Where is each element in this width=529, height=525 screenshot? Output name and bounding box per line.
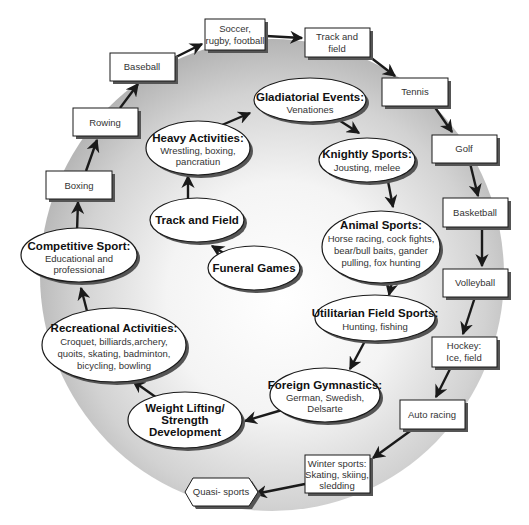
track-field-line-1: Track and <box>316 31 358 42</box>
winter-line-3: sledding <box>319 480 354 491</box>
animal-sports-sub-2: bear/bull baits, gander <box>334 245 428 256</box>
gladiatorial-events-title: Gladiatorial Events: <box>256 91 364 103</box>
track-field-line-2: field <box>328 43 345 54</box>
hexagon-quasi-sports: Quasi- sports <box>185 478 261 509</box>
foreign-gymnastics-sub-1: German, Swedish, <box>286 392 364 403</box>
hockey-line-2: Ice, field <box>446 352 481 363</box>
recreational-activities-sub-3: bicycling, bowling <box>77 360 151 371</box>
utilitarian-field-sports-sub: Hunting, fishing <box>342 321 407 332</box>
rowing-label: Rowing <box>89 117 121 128</box>
baseball-label: Baseball <box>124 61 160 72</box>
golf-label: Golf <box>455 143 473 154</box>
box-hockey: Hockey: Ice, field <box>432 337 500 370</box>
soccer-line-1: Soccer, <box>219 23 251 34</box>
heavy-activities-sub-1: Wrestling, boxing, <box>160 145 235 156</box>
winter-line-1: Winter sports: <box>308 458 367 469</box>
recreational-activities-sub-2: quoits, skating, badminton, <box>57 348 170 359</box>
box-auto-racing: Auto racing <box>400 400 468 432</box>
auto-racing-label: Auto racing <box>408 409 456 420</box>
winter-line-2: Skating, skiing, <box>305 469 369 480</box>
box-baseball: Baseball <box>110 53 178 84</box>
box-basketball: Basketball <box>443 198 511 230</box>
box-winter-sports: Winter sports: Skating, skiing, sledding <box>305 455 373 496</box>
sports-evolution-diagram: Soccer, rugby, football Track and field … <box>0 0 529 525</box>
ellipse-competitive-sport: Competitive Sport: Educational and profe… <box>21 228 140 285</box>
knightly-sports-sub: Jousting, melee <box>334 162 401 173</box>
heavy-activities-sub-2: pancratiun <box>176 156 220 167</box>
weight-lifting-title-2: Strength <box>161 414 208 426</box>
box-golf: Golf <box>432 135 500 166</box>
box-rowing: Rowing <box>73 108 141 139</box>
animal-sports-title: Animal Sports: <box>340 219 422 231</box>
heavy-activities-title: Heavy Activities: <box>152 132 244 144</box>
competitive-sport-sub-2: professional <box>53 264 104 275</box>
box-track-and-field: Track and field <box>305 28 373 60</box>
boxing-label: Boxing <box>64 180 93 191</box>
foreign-gymnastics-title: Foreign Gymnastics: <box>268 379 382 391</box>
utilitarian-field-sports-title: Utilitarian Field Sports: <box>312 307 439 319</box>
animal-sports-sub-3: pulling, fox hunting <box>341 257 420 268</box>
funeral-games-title: Funeral Games <box>212 262 295 274</box>
recreational-activities-title: Recreational Activities: <box>51 322 178 334</box>
quasi-sports-label: Quasi- sports <box>193 486 250 497</box>
competitive-sport-title: Competitive Sport: <box>28 240 131 252</box>
weight-lifting-title-3: Development <box>149 426 221 438</box>
knightly-sports-title: Knightly Sports: <box>322 148 411 160</box>
recreational-activities-sub-1: Croquet, billiards,archery, <box>60 336 168 347</box>
volleyball-label: Volleyball <box>455 277 495 288</box>
foreign-gymnastics-sub-2: Delsarte <box>307 403 342 414</box>
box-volleyball: Volleyball <box>443 269 511 300</box>
basketball-label: Basketball <box>453 207 497 218</box>
weight-lifting-title-1: Weight Lifting/ <box>145 402 225 414</box>
box-boxing: Boxing <box>46 171 115 202</box>
track-and-field-title: Track and Field <box>155 214 239 226</box>
hockey-line-1: Hockey: <box>447 340 481 351</box>
competitive-sport-sub-1: Educational and <box>45 253 113 264</box>
animal-sports-sub-1: Horse racing, cock fights, <box>328 233 435 244</box>
box-tennis: Tennis <box>382 78 451 109</box>
gladiatorial-events-sub: Venationes <box>286 104 333 115</box>
box-soccer: Soccer, rugby, football <box>205 19 268 53</box>
tennis-label: Tennis <box>401 86 429 97</box>
soccer-line-2: rugby, football <box>206 35 265 46</box>
